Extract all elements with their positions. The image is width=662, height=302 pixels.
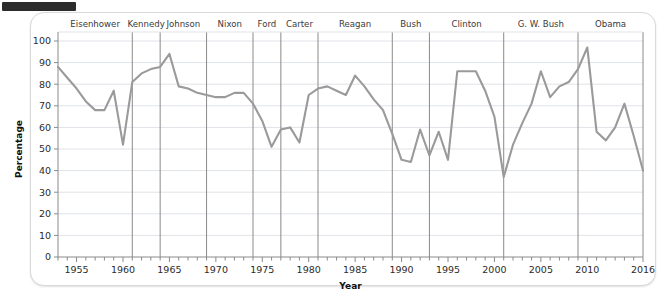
x-tick-label: 1990 (389, 264, 413, 275)
y-tick-label: 80 (39, 79, 51, 90)
y-tick-label: 30 (39, 187, 51, 198)
x-tick-label: 2010 (575, 264, 599, 275)
chart-figure: 0102030405060708090100 19551960196519701… (0, 0, 662, 302)
y-tick-label: 0 (45, 251, 51, 262)
axis-lines (58, 32, 643, 257)
president-label: Ford (258, 19, 277, 29)
y-tick-label: 50 (39, 143, 51, 154)
x-tick-label: 1970 (204, 264, 228, 275)
x-tick-label: 1975 (250, 264, 274, 275)
president-labels: EisenhowerKennedyJohnsonNixonFordCarterR… (70, 19, 626, 29)
x-tick-label: 1980 (297, 264, 321, 275)
president-label: Johnson (165, 19, 200, 29)
president-label: Obama (595, 19, 626, 29)
president-label: G. W. Bush (518, 19, 564, 29)
president-label: Reagan (339, 19, 371, 29)
y-tick-label: 60 (39, 122, 51, 133)
x-tick-label: 1965 (157, 264, 181, 275)
president-label: Nixon (218, 19, 242, 29)
x-axis-title: Year (338, 281, 362, 291)
x-axis-ticks: 1955196019651970197519801985199019952000… (58, 257, 655, 275)
x-tick-label: 1955 (64, 264, 88, 275)
president-label: Eisenhower (70, 19, 120, 29)
president-label: Clinton (451, 19, 481, 29)
president-label: Bush (400, 19, 421, 29)
data-line-series (58, 47, 643, 177)
president-divider-lines (58, 32, 643, 257)
x-tick-label: 1985 (343, 264, 367, 275)
chart-svg: 0102030405060708090100 19551960196519701… (0, 0, 662, 302)
president-label: Carter (286, 19, 313, 29)
x-tick-label: 2000 (482, 264, 506, 275)
y-tick-label: 10 (39, 230, 51, 241)
x-tick-label: 2016 (631, 264, 655, 275)
x-tick-label: 1960 (111, 264, 135, 275)
y-tick-label: 100 (33, 35, 51, 46)
president-label: Kennedy (128, 19, 165, 29)
y-tick-label: 20 (39, 208, 51, 219)
y-tick-label: 70 (39, 100, 51, 111)
y-axis-ticks: 0102030405060708090100 (33, 35, 58, 262)
y-tick-label: 90 (39, 57, 51, 68)
x-tick-label: 2005 (529, 264, 553, 275)
x-tick-label: 1995 (436, 264, 460, 275)
y-axis-title: Percentage (14, 120, 24, 178)
y-tick-label: 40 (39, 165, 51, 176)
gridlines (58, 41, 643, 235)
